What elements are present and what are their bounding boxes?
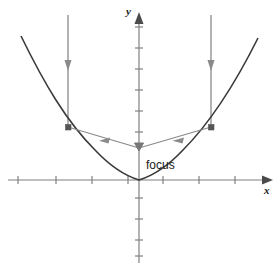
labels-group: focus x y: [124, 5, 270, 196]
x-axis-label: x: [263, 184, 270, 196]
ray-arrowhead-down-left-icon: [65, 60, 72, 71]
ray-arrowhead-down-right-icon: [208, 60, 215, 71]
parabola-figure: focus x y: [0, 0, 278, 271]
points-group: [66, 125, 215, 152]
axes-group: [8, 12, 273, 263]
figure-canvas: focus x y: [0, 0, 278, 271]
reflected-ray-right: [139, 127, 211, 148]
focus-label: focus: [146, 158, 175, 172]
y-axis-label: y: [124, 5, 131, 17]
y-axis-arrow-icon: [135, 12, 144, 24]
reflection-point-right: [209, 125, 215, 131]
reflected-ray-left: [68, 127, 139, 148]
reflection-point-left: [66, 125, 72, 131]
